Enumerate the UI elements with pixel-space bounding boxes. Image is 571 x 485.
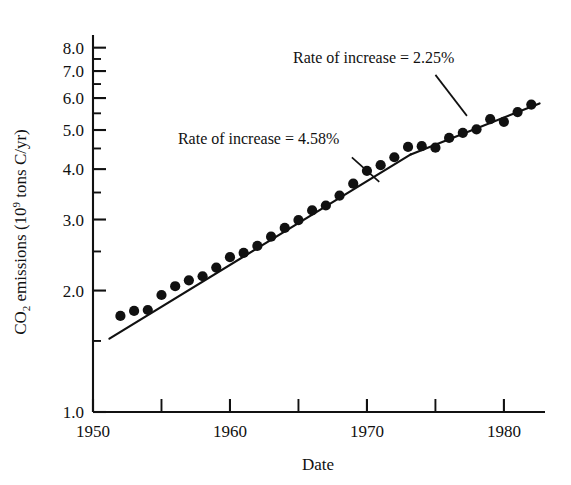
annotation-leader-lines (352, 75, 467, 182)
x-tick-label: 1980 (487, 422, 521, 441)
data-point (444, 133, 454, 143)
data-point (143, 305, 153, 315)
y-tick-label: 7.0 (63, 62, 84, 81)
x-axis-tick-labels: 1950196019701980 (76, 422, 521, 441)
y-tick-label: 4.0 (63, 160, 84, 179)
y-axis-major-ticks (93, 48, 106, 412)
y-tick-label: 5.0 (63, 121, 84, 140)
data-point (499, 117, 509, 127)
annotation-text-group: Rate of increase = 4.58%Rate of increase… (178, 49, 454, 147)
x-tick-label: 1970 (350, 422, 384, 441)
data-point (513, 107, 523, 117)
data-point (471, 124, 481, 134)
y-axis-minor-ticks (93, 59, 101, 341)
annotation-rate-4-58: Rate of increase = 4.58% (178, 130, 339, 147)
data-point (389, 152, 399, 162)
data-point (211, 263, 221, 273)
y-tick-label: 3.0 (63, 211, 84, 230)
y-tick-label: 8.0 (63, 39, 84, 58)
co2-emissions-figure: 1.02.03.04.05.06.07.08.0 195019601970198… (0, 0, 571, 485)
data-point (348, 179, 358, 189)
chart-canvas: 1.02.03.04.05.06.07.08.0 195019601970198… (0, 0, 571, 485)
y-tick-label: 1.0 (63, 403, 84, 422)
data-point (293, 215, 303, 225)
data-point (417, 141, 427, 151)
data-point (321, 200, 331, 210)
y-tick-label: 2.0 (63, 282, 84, 301)
x-axis-minor-ticks (161, 399, 435, 412)
data-point (225, 252, 235, 262)
leader-line-rate-2-25 (435, 75, 467, 116)
data-point (526, 100, 536, 110)
data-point (376, 160, 386, 170)
data-point (458, 128, 468, 138)
x-tick-label: 1950 (76, 422, 110, 441)
data-point (485, 114, 495, 124)
data-point (184, 275, 194, 285)
data-point (266, 232, 276, 242)
data-point (403, 142, 413, 152)
data-point (252, 241, 262, 251)
x-tick-label: 1960 (213, 422, 247, 441)
data-point (307, 205, 317, 215)
data-point (115, 311, 125, 321)
data-point (280, 223, 290, 233)
data-point (170, 281, 180, 291)
data-point (156, 290, 166, 300)
data-point (239, 248, 249, 258)
data-point (129, 306, 139, 316)
y-axis-tick-labels: 1.02.03.04.05.06.07.08.0 (63, 39, 84, 422)
data-point (430, 143, 440, 153)
x-axis-title: Date (302, 455, 334, 474)
data-point (362, 166, 372, 176)
y-tick-label: 6.0 (63, 89, 84, 108)
y-axis-title: CO2 emissions (109 tons C/yr) (10, 129, 32, 335)
data-point (334, 190, 344, 200)
data-point (197, 271, 207, 281)
annotation-rate-2-25: Rate of increase = 2.25% (293, 49, 454, 66)
